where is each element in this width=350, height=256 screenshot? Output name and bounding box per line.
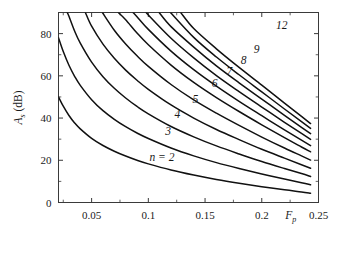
curve-n-11	[170, 13, 310, 129]
curve-labels: n = 2345678912	[149, 19, 287, 163]
y-tick-label: 0	[46, 197, 52, 209]
x-tick-label: 0.25	[309, 209, 329, 221]
curve-label-8: 8	[241, 54, 247, 66]
curve-label-3: 3	[164, 125, 171, 137]
curve-label-12: 12	[276, 19, 288, 31]
curve-n-12	[181, 13, 311, 124]
x-tick-label: 0.05	[82, 209, 102, 221]
x-tick-label: 0.2	[255, 209, 269, 221]
curve-label-2: n = 2	[149, 151, 174, 163]
y-axis-title: As (dB)	[12, 90, 27, 125]
curve-label-4: 4	[174, 108, 180, 120]
x-tick-label: 0.1	[141, 209, 155, 221]
figure-container: 0.050.10.150.20.25020406080 n = 23456789…	[0, 0, 350, 256]
curve-label-9: 9	[254, 43, 260, 55]
curve-label-7: 7	[227, 65, 234, 77]
axis-tick-labels: 0.050.10.150.20.25020406080	[41, 28, 329, 221]
x-axis-title: Fp	[284, 209, 296, 224]
curve-n-6	[102, 13, 310, 161]
curve-label-5: 5	[193, 93, 199, 105]
y-tick-label: 80	[41, 28, 53, 40]
curve-label-6: 6	[212, 77, 218, 89]
y-tick-label: 60	[41, 70, 53, 82]
curve-n-2	[59, 97, 311, 193]
y-tick-label: 40	[41, 112, 53, 124]
curve-lines	[59, 12, 311, 193]
y-tick-label: 20	[41, 154, 53, 166]
x-tick-label: 0.15	[195, 209, 215, 221]
chart-canvas: 0.050.10.150.20.25020406080 n = 23456789…	[0, 0, 350, 256]
curve-n-3	[59, 38, 311, 185]
